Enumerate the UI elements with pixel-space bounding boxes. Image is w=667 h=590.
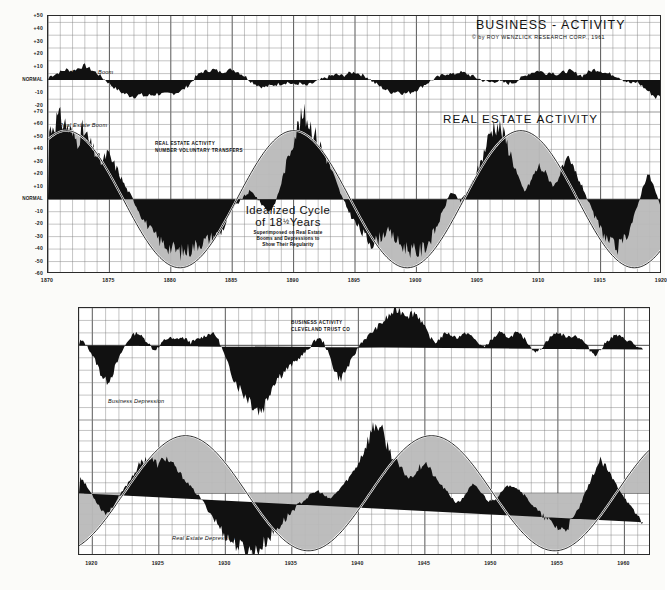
top-xtick: 1890 <box>286 277 298 283</box>
top-xtick: 1885 <box>225 277 237 283</box>
top-xtick: 1905 <box>471 277 483 283</box>
top-realestate-ytick: -10 <box>0 208 43 214</box>
bottom-xtick: 1935 <box>285 560 297 566</box>
top-realestate-ytick: +70 <box>0 108 43 114</box>
top-realestate-ytick: +10 <box>0 183 43 189</box>
business-depression-label: Business Depression <box>108 398 164 404</box>
top-business-ytick: -10 <box>0 89 43 95</box>
top-realestate-ytick: +40 <box>0 145 43 151</box>
top-realestate-ytick: +60 <box>0 120 43 126</box>
bottom-xtick: 1925 <box>152 560 164 566</box>
idealized-cycle-line1: Idealized Cycle <box>208 205 368 217</box>
idealized-cycle-post: Years <box>290 216 321 228</box>
top-realestate-ytick: -20 <box>0 220 43 226</box>
top-xtick: 1915 <box>593 277 605 283</box>
bottom-xtick: 1955 <box>551 560 563 566</box>
real-estate-activity-title: REAL ESTATE ACTIVITY <box>443 112 598 125</box>
idealized-cycle-sub: Superimposed on Real Estate Booms and De… <box>208 230 368 248</box>
bottom-plot-area <box>78 307 650 555</box>
top-business-ytick: +20 <box>0 50 43 56</box>
business-activity-line1: BUSINESS ACTIVITY <box>291 320 342 325</box>
top-realestate-ytick: +30 <box>0 158 43 164</box>
idealized-sub-2: Booms and Depressions to <box>256 236 319 241</box>
bottom-xtick: 1950 <box>484 560 496 566</box>
bottom-xtick: 1960 <box>617 560 629 566</box>
bottom-xtick: 1920 <box>85 560 97 566</box>
top-business-ytick: NORMAL <box>0 77 43 82</box>
real-estate-activity-series-label: REAL ESTATE ACTIVITY NUMBER VOLUNTARY TR… <box>155 141 243 154</box>
top-business-ytick: +40 <box>0 25 43 31</box>
business-boom-label: Business Boom <box>72 69 113 75</box>
real-estate-boom-label: Real Estate Boom <box>59 122 107 128</box>
bottom-xtick: 1940 <box>351 560 363 566</box>
top-realestate-ytick: -40 <box>0 245 43 251</box>
idealized-cycle-line2: of 18½Years <box>208 217 368 229</box>
idealized-cycle-caption: Idealized Cycle of 18½Years Superimposed… <box>208 205 368 248</box>
top-business-ytick: +10 <box>0 63 43 69</box>
top-realestate-ytick: -60 <box>0 270 43 276</box>
top-xtick: 1900 <box>409 277 421 283</box>
idealized-sub-3: Show Their Regularity <box>262 242 314 247</box>
copyright-notice: © by ROY WENZLICK RESEARCH CORP., 1961 <box>472 34 605 40</box>
top-xtick: 1880 <box>164 277 176 283</box>
top-realestate-ytick: -50 <box>0 258 43 264</box>
top-xtick: 1870 <box>41 277 53 283</box>
top-realestate-ytick: NORMAL <box>0 196 43 201</box>
idealized-cycle-pre: of 18 <box>255 216 283 228</box>
top-xtick: 1895 <box>348 277 360 283</box>
real-estate-depression-label: Real Estate Depression <box>172 535 235 541</box>
re-activity-line2: NUMBER VOLUNTARY TRANSFERS <box>155 148 243 153</box>
top-realestate-ytick: -30 <box>0 233 43 239</box>
re-activity-line1: REAL ESTATE ACTIVITY <box>155 141 215 146</box>
top-business-ytick: -20 <box>0 102 43 108</box>
bottom-panel: 192019251930193519401945195019551960 BUS… <box>0 298 665 590</box>
top-panel: +50+40+30+20+10NORMAL-10-20 +70+60+50+40… <box>0 0 665 295</box>
business-activity-line2: CLEVELAND TRUST CO <box>291 327 350 332</box>
page-title: BUSINESS - ACTIVITY <box>476 18 626 32</box>
top-xtick: 1920 <box>655 277 667 283</box>
business-activity-source-label: BUSINESS ACTIVITY CLEVELAND TRUST CO <box>291 320 350 333</box>
top-xtick: 1910 <box>532 277 544 283</box>
top-realestate-ytick: +20 <box>0 170 43 176</box>
bottom-xtick: 1930 <box>218 560 230 566</box>
top-business-ytick: +30 <box>0 38 43 44</box>
top-xtick: 1875 <box>102 277 114 283</box>
idealized-cycle-fraction: ½ <box>283 217 290 226</box>
idealized-sub-1: Superimposed on Real Estate <box>254 230 323 235</box>
bottom-xtick: 1945 <box>418 560 430 566</box>
top-realestate-ytick: +50 <box>0 133 43 139</box>
top-business-ytick: +50 <box>0 12 43 18</box>
